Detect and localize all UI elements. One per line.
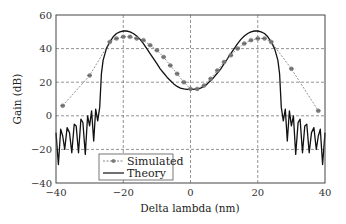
y-tick-label: 40 [39,43,52,54]
simulated-marker-icon [222,60,227,64]
simulated-marker-icon [229,53,234,57]
legend: Simulated Theory [99,154,184,180]
simulated-marker-icon [316,109,321,113]
grid-lines [56,15,325,183]
simulated-marker-icon [242,42,247,46]
simulated-marker-icon [255,37,260,41]
y-tick-label: 60 [39,10,52,21]
simulated-marker-icon [168,63,173,67]
y-tick-label: 20 [39,77,52,88]
y-tick-label: 0 [46,110,52,121]
simulated-marker-icon [128,35,133,39]
x-tick-label: 0 [187,187,193,198]
x-axis-ticks: −40−2002040 [45,187,331,198]
simulated-marker-icon [249,38,254,42]
simulated-marker-icon [148,43,153,47]
x-axis-label: Delta lambda (nm) [140,202,239,214]
y-axis-ticks: −40−200204060 [31,10,52,189]
simulated-marker-icon [182,80,187,84]
simulated-marker-icon [195,87,200,91]
y-axis-label: Gain (dB) [11,74,23,125]
simulated-marker-icon [235,47,240,51]
x-tick-label: −40 [45,187,66,198]
x-tick-label: 20 [251,187,264,198]
simulated-marker-icon [289,67,294,71]
simulated-marker-icon [141,38,146,42]
simulated-marker-icon [202,84,207,88]
simulated-marker-icon [114,37,119,41]
simulated-marker-icon [208,77,213,81]
simulated-marker-icon [155,48,160,52]
simulated-marker-icon [134,37,139,41]
gain-chart: −40−200204060 −40−2002040 Delta lambda (… [0,0,346,224]
simulated-marker-icon [60,104,65,108]
simulated-marker-icon [108,40,113,44]
simulated-marker-icon [175,72,180,76]
simulated-marker-icon [87,74,92,78]
simulated-marker-icon [262,37,267,41]
simulated-marker-icon [121,35,126,39]
simulated-marker-icon [269,40,274,44]
legend-label-theory: Theory [127,167,167,180]
x-tick-label: −20 [113,187,134,198]
y-tick-label: −20 [31,144,52,155]
x-tick-label: 40 [319,187,332,198]
simulated-marker-icon [161,55,166,59]
simulated-marker-icon [188,87,193,91]
simulated-marker-icon [215,68,220,72]
